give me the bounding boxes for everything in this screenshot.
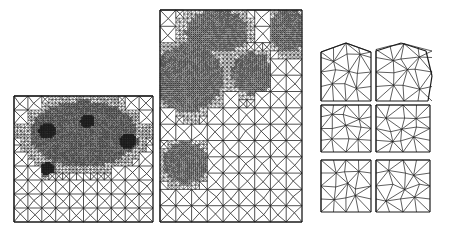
mesh-square-refined: [14, 96, 153, 222]
mesh-rectangle-refined: [160, 10, 302, 222]
small-mesh-square-b: [376, 105, 430, 152]
small-mesh-square-c: [321, 160, 371, 212]
small-mesh-pentagon: [321, 43, 371, 101]
small-mesh-square-a: [321, 105, 371, 152]
mesh-figure: [0, 0, 449, 234]
small-mesh-hexagon: [376, 43, 432, 101]
small-mesh-square-d: [376, 160, 430, 212]
